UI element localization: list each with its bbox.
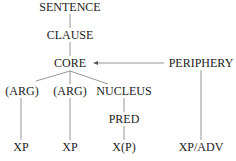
node-periphery: PERIPHERY: [169, 56, 234, 70]
edge-core-arg1: [36, 71, 70, 81]
node-xp-2: XP: [62, 140, 77, 154]
node-xp-1: XP: [13, 140, 28, 154]
node-core: CORE: [54, 56, 86, 70]
tree-edges: [0, 0, 236, 161]
node-sentence: SENTENCE: [39, 0, 100, 14]
node-xp-adv: XP/ADV: [179, 140, 224, 154]
node-clause: CLAUSE: [47, 28, 94, 42]
node-nucleus: NUCLEUS: [96, 84, 151, 98]
node-arg-2: (ARG): [53, 84, 86, 98]
node-xp-3: X(P): [112, 140, 135, 154]
node-arg-1: (ARG): [5, 84, 38, 98]
arrowhead-icon: [93, 61, 98, 65]
node-pred: PRED: [109, 112, 140, 126]
edge-core-nucleus: [70, 71, 108, 84]
